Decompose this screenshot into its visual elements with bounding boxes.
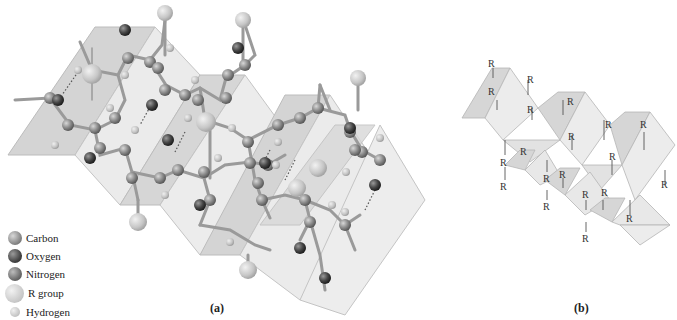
nitrogen-sphere-icon (8, 267, 22, 281)
svg-text:R: R (543, 173, 550, 184)
legend-item-r-group: R group (8, 283, 98, 303)
legend-item-hydrogen: Hydrogen (8, 303, 98, 320)
svg-text:R: R (582, 189, 589, 200)
legend-item-nitrogen: Nitrogen (8, 265, 98, 283)
r-group-sphere-icon (5, 284, 24, 303)
svg-text:R: R (582, 233, 589, 244)
oxygen-sphere-icon (8, 249, 22, 263)
svg-text:R: R (527, 74, 534, 85)
svg-text:R: R (559, 169, 566, 180)
svg-text:R: R (640, 119, 647, 130)
beta-sheet-figure: R R R R R R R R R R R R R R R R R R R R (0, 0, 677, 320)
legend-label: Oxygen (26, 250, 61, 262)
svg-text:R: R (527, 104, 534, 115)
svg-text:R: R (500, 181, 507, 192)
legend-label: Nitrogen (26, 268, 65, 280)
panel-b-label: (b) (574, 301, 589, 316)
legend-item-oxygen: Oxygen (8, 247, 98, 265)
legend-label: Carbon (26, 232, 58, 244)
atom-legend: Carbon Oxygen Nitrogen R group Hydrogen (8, 229, 98, 320)
svg-text:R: R (500, 157, 507, 168)
svg-text:R: R (661, 179, 668, 190)
svg-text:R: R (568, 131, 575, 142)
svg-text:R: R (605, 119, 612, 130)
hydrogen-sphere-icon (10, 307, 20, 317)
legend-label: Hydrogen (26, 306, 70, 318)
legend-item-carbon: Carbon (8, 229, 98, 247)
svg-text:R: R (520, 146, 527, 157)
svg-text:R: R (567, 96, 574, 107)
svg-text:R: R (488, 86, 495, 97)
svg-text:R: R (601, 187, 608, 198)
svg-text:R: R (543, 201, 550, 212)
svg-text:R: R (488, 58, 495, 69)
legend-label: R group (28, 287, 64, 299)
svg-text:R: R (626, 213, 633, 224)
panel-a-label: (a) (210, 301, 224, 316)
svg-text:R: R (609, 151, 616, 162)
carbon-sphere-icon (8, 231, 22, 245)
